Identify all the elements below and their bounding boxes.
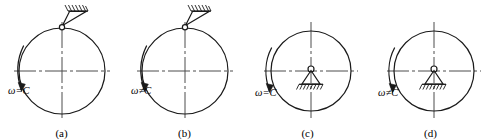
panel-d-drawing — [369, 0, 492, 140]
panel-a-drawing — [0, 0, 123, 140]
pin-support-triangle — [186, 12, 210, 26]
panel-d: ω≠C (d) — [369, 0, 492, 140]
pin-hinge-circle — [182, 25, 187, 30]
pin-support-triangle — [63, 12, 87, 26]
figure-root: ω=C (a) ω≠C (b) — [0, 0, 493, 140]
panel-c-drawing — [246, 0, 369, 140]
panel-caption-a: (a) — [0, 128, 123, 139]
panel-caption-d: (d) — [369, 128, 492, 139]
omega-label-a: ω=C — [8, 86, 30, 97]
ceiling-hatching — [188, 5, 211, 11]
panel-b: ω≠C (b) — [123, 0, 246, 140]
omega-label-c: ω=C — [255, 88, 277, 99]
omega-label-b: ω≠C — [131, 86, 151, 97]
panel-caption-c: (c) — [246, 128, 369, 139]
omega-label-d: ω≠C — [378, 88, 398, 99]
ceiling-hatching — [65, 5, 88, 11]
panel-a: ω=C (a) — [0, 0, 123, 140]
panel-caption-b: (b) — [123, 128, 246, 139]
ground-hatching — [297, 84, 324, 89]
ground-hatching — [420, 84, 447, 89]
panel-b-drawing — [123, 0, 246, 140]
panel-c: ω=C (c) — [246, 0, 369, 140]
pin-hinge-circle — [59, 25, 64, 30]
